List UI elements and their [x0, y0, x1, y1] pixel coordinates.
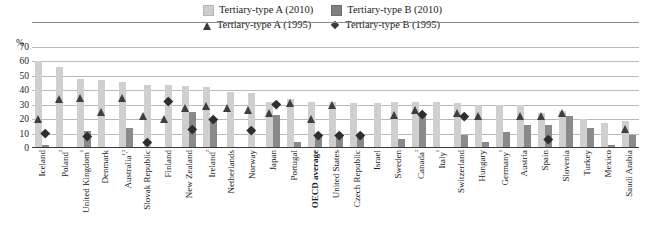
x-axis-tick-label: Ireland² — [203, 150, 216, 177]
marker-tertiary-a-1995[interactable] — [621, 125, 630, 134]
bar-tertiary-a-2010[interactable] — [601, 123, 608, 148]
marker-tertiary-a-1995[interactable] — [97, 108, 106, 117]
marker-tertiary-b-1995[interactable] — [83, 132, 92, 141]
marker-tertiary-a-1995[interactable] — [390, 111, 399, 120]
marker-tertiary-b-1995[interactable] — [314, 131, 323, 140]
marker-tertiary-b-1995[interactable] — [335, 131, 344, 140]
bar-group[interactable] — [493, 47, 514, 148]
bar-tertiary-a-2010[interactable] — [496, 105, 503, 148]
bar-group[interactable] — [325, 47, 346, 148]
bar-group[interactable] — [346, 47, 367, 148]
bar-pair — [388, 47, 409, 148]
bar-tertiary-a-2010[interactable] — [119, 82, 126, 148]
bar-tertiary-a-2010[interactable] — [391, 102, 398, 148]
bar-columns — [32, 47, 639, 148]
bar-group[interactable] — [430, 47, 451, 148]
bar-group[interactable] — [576, 47, 597, 148]
marker-tertiary-a-1995[interactable] — [265, 109, 274, 118]
marker-tertiary-a-1995[interactable] — [160, 115, 169, 124]
x-axis-tick-label: Israel — [373, 150, 382, 170]
marker-tertiary-a-1995[interactable] — [328, 101, 337, 110]
marker-tertiary-b-1995[interactable] — [272, 100, 281, 109]
marker-tertiary-a-1995[interactable] — [223, 104, 232, 113]
marker-tertiary-a-1995[interactable] — [537, 112, 546, 121]
bar-group[interactable] — [472, 47, 493, 148]
marker-tertiary-a-1995[interactable] — [76, 94, 85, 103]
bar-tertiary-a-2010[interactable] — [248, 93, 255, 148]
bar-group[interactable] — [137, 47, 158, 148]
bar-tertiary-b-2010[interactable] — [503, 132, 510, 148]
bar-tertiary-a-2010[interactable] — [350, 103, 357, 148]
marker-tertiary-a-1995[interactable] — [139, 112, 148, 121]
bar-group[interactable] — [116, 47, 137, 148]
bar-tertiary-a-2010[interactable] — [433, 102, 440, 148]
x-axis-tick-label: Finland — [164, 150, 173, 178]
x-axis-tick-label: Austria — [520, 150, 529, 177]
marker-tertiary-a-1995[interactable] — [55, 95, 64, 104]
bar-group[interactable] — [451, 47, 472, 148]
marker-tertiary-a-1995[interactable] — [34, 115, 43, 124]
marker-tertiary-b-1995[interactable] — [209, 115, 218, 124]
bar-tertiary-a-2010[interactable] — [517, 105, 524, 148]
x-axis-tick-label: Switzerland — [457, 150, 466, 193]
marker-tertiary-b-1995[interactable] — [143, 138, 152, 147]
bar-group[interactable] — [597, 47, 618, 148]
bar-tertiary-b-2010[interactable] — [566, 116, 573, 148]
bar-group[interactable] — [388, 47, 409, 148]
marker-tertiary-b-1995[interactable] — [418, 110, 427, 119]
bar-tertiary-a-2010[interactable] — [475, 105, 482, 148]
bar-tertiary-b-2010[interactable] — [524, 125, 531, 148]
bar-group[interactable] — [367, 47, 388, 148]
bar-tertiary-a-2010[interactable] — [182, 86, 189, 148]
bar-group[interactable] — [555, 47, 576, 148]
x-axis-tick-label: Poland² — [57, 150, 70, 177]
marker-tertiary-a-1995[interactable] — [202, 102, 211, 111]
marker-tertiary-a-1995[interactable] — [558, 109, 567, 118]
bar-group[interactable] — [179, 47, 200, 148]
bar-pair — [535, 47, 556, 148]
marker-tertiary-a-1995[interactable] — [474, 112, 483, 121]
marker-tertiary-b-1995[interactable] — [164, 97, 173, 106]
bar-tertiary-b-2010[interactable] — [587, 128, 594, 148]
bar-group[interactable] — [53, 47, 74, 148]
bar-group[interactable] — [514, 47, 535, 148]
bar-tertiary-a-2010[interactable] — [227, 92, 234, 148]
bar-group[interactable] — [241, 47, 262, 148]
marker-tertiary-b-1995[interactable] — [247, 126, 256, 135]
marker-tertiary-a-1995[interactable] — [307, 115, 316, 124]
bar-tertiary-a-2010[interactable] — [56, 67, 63, 148]
marker-tertiary-b-1995[interactable] — [544, 135, 553, 144]
bar-tertiary-a-2010[interactable] — [580, 119, 587, 148]
bar-tertiary-b-2010[interactable] — [273, 115, 280, 148]
legend-label: Tertiary-type B (2010) — [347, 4, 442, 16]
marker-tertiary-b-1995[interactable] — [460, 112, 469, 121]
marker-tertiary-a-1995[interactable] — [516, 112, 525, 121]
y-axis-tick-label: 20 — [20, 115, 30, 124]
bar-group[interactable] — [95, 47, 116, 148]
bar-tertiary-a-2010[interactable] — [308, 102, 315, 148]
x-axis-tick-label: Canada² — [413, 150, 426, 179]
bar-tertiary-b-2010[interactable] — [126, 128, 133, 148]
bar-group[interactable] — [618, 47, 639, 148]
bar-group[interactable] — [74, 47, 95, 148]
bar-group[interactable] — [304, 47, 325, 148]
marker-tertiary-a-1995[interactable] — [286, 99, 295, 108]
marker-tertiary-a-1995[interactable] — [118, 94, 127, 103]
bar-group[interactable] — [200, 47, 221, 148]
bar-pair — [430, 47, 451, 148]
marker-tertiary-b-1995[interactable] — [356, 131, 365, 140]
marker-tertiary-a-1995[interactable] — [181, 104, 190, 113]
bar-group[interactable] — [535, 47, 556, 148]
bar-group[interactable] — [32, 47, 53, 148]
bar-group[interactable] — [262, 47, 283, 148]
x-axis-label-cell: Mexico — [597, 150, 618, 232]
bar-tertiary-a-2010[interactable] — [374, 103, 381, 148]
bar-group[interactable] — [283, 47, 304, 148]
bar-group[interactable] — [409, 47, 430, 148]
marker-tertiary-a-1995[interactable] — [244, 106, 253, 115]
marker-tertiary-b-1995[interactable] — [188, 125, 197, 134]
bar-group[interactable] — [158, 47, 179, 148]
bar-group[interactable] — [220, 47, 241, 148]
x-axis-tick-label: United States — [331, 150, 340, 198]
marker-tertiary-b-1995[interactable] — [41, 129, 50, 138]
